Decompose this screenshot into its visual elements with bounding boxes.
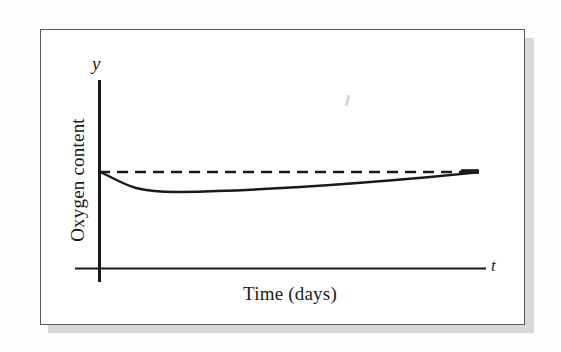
x-axis-title: Time (days) bbox=[243, 283, 337, 305]
figure-screenshot: y t Oxygen content Time (days) bbox=[0, 0, 561, 352]
y-axis-variable-label: y bbox=[92, 54, 100, 73]
oxygen-sag-curve bbox=[100, 172, 478, 192]
curve-endpoint-marker bbox=[461, 169, 479, 174]
x-axis-variable-label: t bbox=[491, 257, 496, 274]
y-axis-title: Oxygen content bbox=[67, 118, 89, 242]
